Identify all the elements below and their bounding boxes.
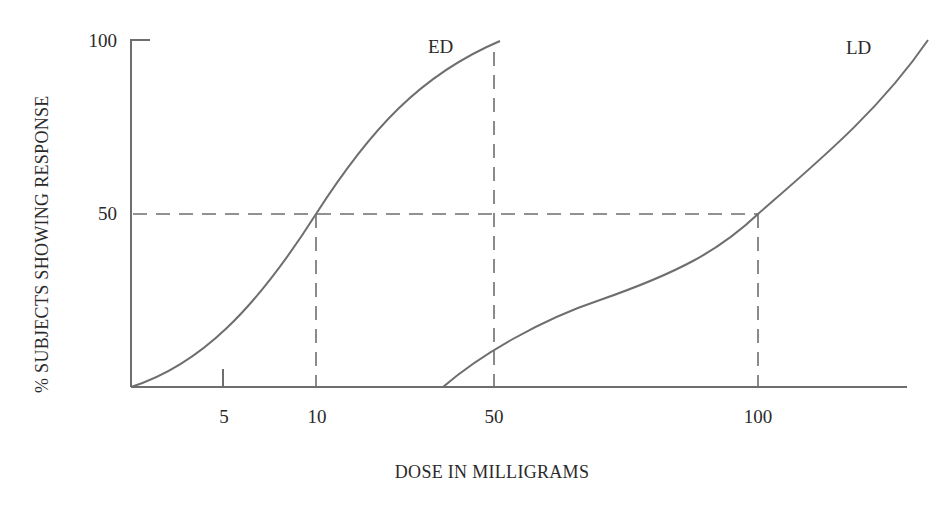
y-axis-title: % SUBJECTS SHOWING RESPONSE	[32, 95, 53, 393]
x-tick-label-50: 50	[485, 406, 504, 428]
chart-plot-area	[0, 0, 933, 505]
y-tick-label-50: 50	[67, 203, 117, 225]
dose-response-chart: 100 50 5 10 50 100 ED LD DOSE IN MILLIGR…	[0, 0, 933, 505]
x-tick-label-10: 10	[308, 406, 327, 428]
y-tick-label-100: 100	[67, 30, 117, 52]
x-tick-label-100: 100	[744, 406, 773, 428]
series-label-ed: ED	[428, 36, 453, 58]
series-label-ld: LD	[846, 37, 871, 59]
x-tick-label-5: 5	[219, 406, 229, 428]
x-axis-title: DOSE IN MILLIGRAMS	[395, 462, 589, 483]
